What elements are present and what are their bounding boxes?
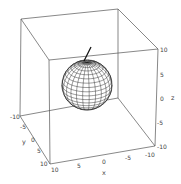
y-tick: 10: [40, 160, 48, 167]
z-tick: -5: [157, 119, 163, 126]
x-tick: 0: [102, 158, 106, 165]
y-tick: 0: [31, 136, 35, 143]
x-tick: 10: [51, 166, 59, 173]
z-tick: 5: [160, 71, 164, 78]
x-tick: 5: [77, 162, 81, 169]
z-axis-label: z: [171, 94, 175, 102]
z-tick: 10: [160, 46, 168, 53]
sphere-wireframe: [62, 60, 112, 110]
x-axis-label: x: [102, 169, 106, 177]
y-tick: 5: [37, 147, 41, 154]
y-axis: -10 -5 0 5 10 y: [10, 113, 48, 167]
line-segment: [84, 47, 91, 61]
z-tick: -10: [157, 143, 167, 150]
x-tick: -10: [145, 151, 155, 158]
z-tick: 0: [160, 95, 164, 102]
3d-plot: 10 5 0 -5 -10 x -10 -5 0 5 10 y 10 5 0 -…: [0, 0, 181, 184]
y-axis-label: y: [22, 138, 26, 146]
y-tick: -10: [10, 113, 20, 120]
x-tick: -5: [125, 154, 131, 161]
z-axis: 10 5 0 -5 -10 z: [157, 46, 175, 150]
y-tick: -5: [20, 123, 26, 130]
